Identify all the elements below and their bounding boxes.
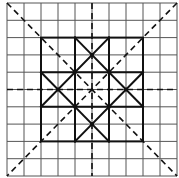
symmetry-grid-diagram	[0, 0, 179, 178]
intersection-dot	[73, 70, 77, 74]
intersection-dot	[90, 53, 94, 57]
intersection-dot	[90, 122, 94, 126]
intersection-dot	[56, 88, 60, 92]
intersection-dot	[73, 105, 77, 109]
intersection-dot	[107, 105, 111, 109]
intersection-dot	[107, 70, 111, 74]
intersection-dot	[124, 88, 128, 92]
